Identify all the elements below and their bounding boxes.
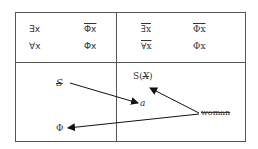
arrow-s-to-a (70, 83, 138, 103)
arrows-layer (0, 0, 258, 149)
sexuation-diagram: ∃x Φx ∀x Φx ∃x Φx ∀x Φx S S(X) a woman Φ (0, 0, 258, 149)
arrow-woman-to-s (150, 88, 199, 113)
arrow-woman-to-phi (68, 114, 199, 128)
